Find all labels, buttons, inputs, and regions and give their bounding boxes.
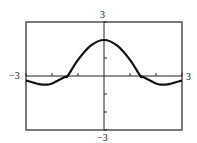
y-min-label: −3 — [97, 133, 108, 143]
graph — [0, 0, 197, 143]
y-max-label: 3 — [100, 10, 105, 20]
x-max-label: 3 — [186, 72, 191, 82]
x-min-label: −3 — [9, 71, 20, 81]
axes — [26, 22, 182, 130]
